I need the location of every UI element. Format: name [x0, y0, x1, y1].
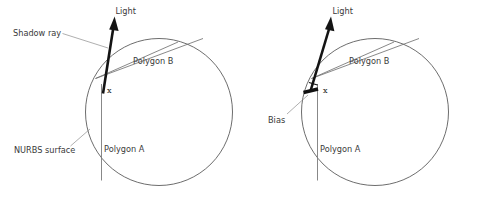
shadow-ray-arrowhead-right	[325, 17, 334, 32]
label-nurbs-surface-left: NURBS surface	[14, 145, 75, 155]
shadow-ray-shaft-right	[311, 29, 330, 92]
label-point-x-left: x	[107, 86, 112, 95]
panel-left: Light Shadow ray Polygon B Polygon A NUR…	[13, 6, 233, 186]
label-point-x-right: x	[323, 86, 328, 95]
panel-right: Light Polygon B Polygon A Bias x	[268, 6, 449, 186]
label-bias-right: Bias	[268, 115, 285, 125]
figure-canvas: Light Shadow ray Polygon B Polygon A NUR…	[0, 0, 481, 198]
label-light-left: Light	[116, 6, 137, 16]
shadow-ray-arrowhead-left	[109, 17, 118, 32]
bias-leader-right	[287, 95, 308, 114]
label-light-right: Light	[333, 6, 354, 16]
shadow-ray-leader-left	[63, 34, 109, 49]
shadow-ray-arrow-left	[103, 17, 119, 94]
shadow-ray-shaft-left	[103, 29, 113, 94]
label-polygon-a-right: Polygon A	[320, 144, 361, 154]
label-polygon-b-left: Polygon B	[133, 56, 174, 66]
nurbs-surface-leader-left	[71, 129, 91, 146]
bias-offset-segment	[304, 89, 319, 93]
label-polygon-b-right: Polygon B	[349, 56, 390, 66]
label-shadow-ray-left: Shadow ray	[13, 28, 61, 38]
label-polygon-a-left: Polygon A	[104, 144, 145, 154]
diagram-svg: Light Shadow ray Polygon B Polygon A NUR…	[0, 0, 481, 198]
